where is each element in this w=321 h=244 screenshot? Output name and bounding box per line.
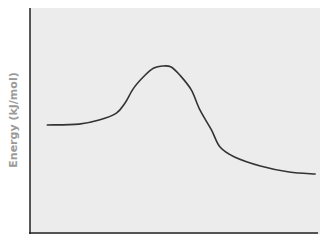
- energy-diagram: Energy (kJ/mol): [0, 0, 321, 244]
- y-axis-label: Energy (kJ/mol): [7, 72, 20, 167]
- plot-background: [30, 8, 320, 234]
